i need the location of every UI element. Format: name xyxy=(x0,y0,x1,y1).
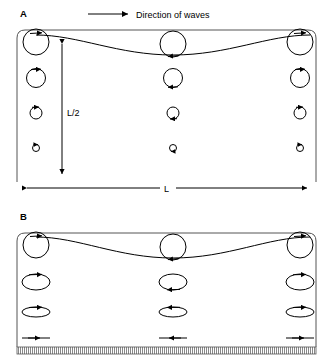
orbit-row-a-1 xyxy=(23,29,313,57)
orbit-direction-arrow xyxy=(30,236,42,237)
wave-orbital-motion-figure: A Direction of waves xyxy=(0,0,333,364)
wave-surface-a xyxy=(36,35,310,55)
direction-of-waves-annotation: Direction of waves xyxy=(88,10,210,20)
orbit-circle xyxy=(160,31,186,57)
orbit-circle xyxy=(160,234,186,260)
orbit-circle xyxy=(294,107,306,119)
panel-a: A Direction of waves xyxy=(17,8,316,194)
orbit-row-a-2 xyxy=(27,69,310,88)
panel-a-label: A xyxy=(20,8,27,19)
wave-surface-b xyxy=(36,237,310,258)
water-body-outline-b xyxy=(17,233,316,347)
orbit-ellipse xyxy=(159,274,187,290)
orbit-circle xyxy=(30,107,42,119)
orbit-direction-arrow xyxy=(168,87,178,88)
wavelength-dimension-a: L xyxy=(27,181,307,194)
depth-dimension-a: L/2 xyxy=(62,44,88,174)
orbit-direction-arrow xyxy=(30,33,42,34)
orbit-circle xyxy=(291,69,310,88)
orbit-direction-arrow xyxy=(294,33,306,34)
orbit-circle xyxy=(164,69,183,88)
orbit-circle xyxy=(170,145,177,152)
orbit-ellipse xyxy=(286,274,314,290)
orbit-ellipse xyxy=(22,307,50,317)
orbit-row-b-1 xyxy=(23,232,313,260)
panel-b: B xyxy=(17,211,316,354)
orbit-row-b-3 xyxy=(22,307,314,317)
orbit-ellipse xyxy=(159,307,187,317)
orbit-ellipse xyxy=(286,307,314,317)
orbit-row-b-2 xyxy=(22,274,314,290)
orbit-circle xyxy=(297,145,304,152)
orbit-circle xyxy=(33,145,40,152)
seabed-hatch-band xyxy=(17,347,316,354)
figure-canvas: A Direction of waves xyxy=(0,0,333,364)
orbit-direction-arrow xyxy=(294,236,306,237)
orbit-circle xyxy=(27,69,46,88)
orbit-ellipse xyxy=(22,274,50,290)
wavelength-label: L xyxy=(164,184,169,194)
orbit-row-a-4 xyxy=(33,145,304,152)
panel-b-label: B xyxy=(20,211,27,222)
seabed xyxy=(17,347,316,354)
direction-of-waves-label: Direction of waves xyxy=(136,10,210,20)
orbit-circle xyxy=(167,107,179,119)
depth-label: L/2 xyxy=(67,108,80,118)
